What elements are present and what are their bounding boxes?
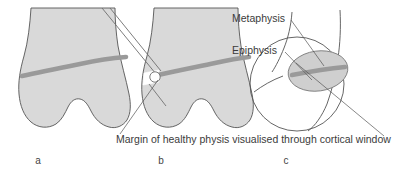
panel-a: a (19, 8, 131, 166)
cortical-window-caption: Margin of healthy physis visualised thro… (116, 133, 391, 145)
panel-letter-b: b (158, 155, 164, 166)
anatomical-figure: a b (0, 0, 407, 177)
bone-outline-a (19, 8, 131, 128)
figure-canvas: a b (0, 0, 407, 177)
metaphysis-label: Metaphysis (232, 12, 285, 24)
epiphysis-label: Epiphysis (232, 44, 277, 56)
panel-letter-a: a (35, 155, 41, 166)
panel-letter-c: c (284, 155, 289, 166)
bone-contour-c-lower (254, 76, 283, 92)
arthroscope-lens-icon (150, 72, 160, 82)
